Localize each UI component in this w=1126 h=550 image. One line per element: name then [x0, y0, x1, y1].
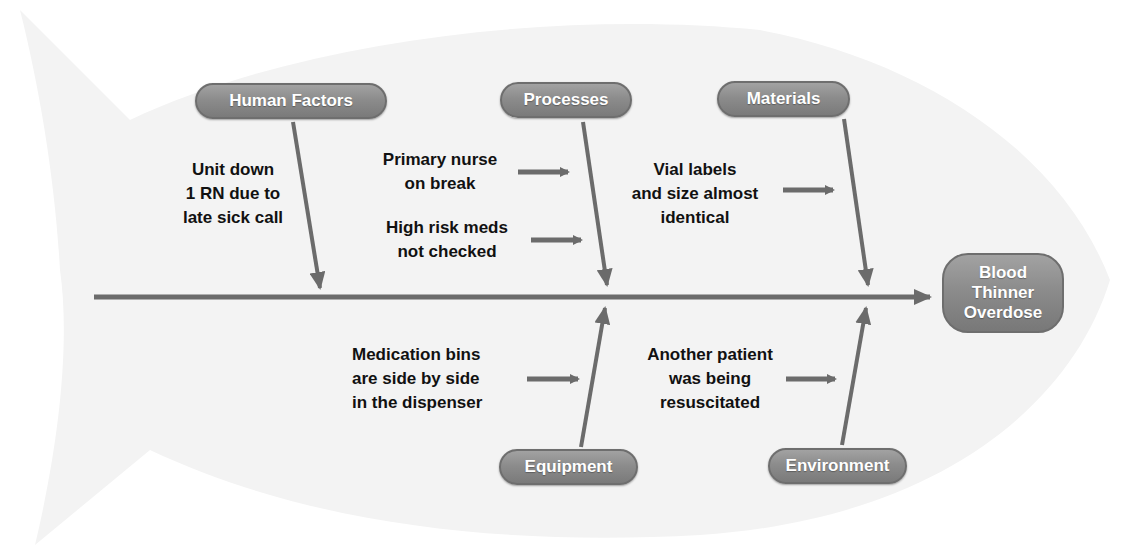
- category-materials: Materials: [717, 81, 850, 117]
- effect-line: Thinner: [972, 283, 1034, 303]
- cause-line: on break: [368, 172, 512, 196]
- effect-line: Overdose: [964, 303, 1042, 323]
- cause-line: was being: [640, 367, 780, 391]
- cause-line: 1 RN due to: [170, 182, 296, 206]
- cause-line: are side by side: [352, 367, 512, 391]
- cause-vial-labels: Vial labels and size almost identical: [614, 158, 776, 230]
- category-equipment: Equipment: [499, 449, 638, 485]
- cause-line: High risk meds: [370, 216, 524, 240]
- effect-line: Blood: [979, 263, 1027, 283]
- cause-line: Unit down: [170, 158, 296, 182]
- cause-line: late sick call: [170, 206, 296, 230]
- category-environment: Environment: [768, 448, 907, 484]
- effect-head: Blood Thinner Overdose: [942, 253, 1064, 333]
- cause-line: not checked: [370, 240, 524, 264]
- cause-line: identical: [614, 206, 776, 230]
- fishbone-diagram: Human Factors Processes Materials Equipm…: [0, 0, 1126, 550]
- cause-line: Vial labels: [614, 158, 776, 182]
- cause-line: in the dispenser: [352, 391, 512, 415]
- cause-high-risk-meds: High risk meds not checked: [370, 216, 524, 264]
- cause-line: resuscitated: [640, 391, 780, 415]
- category-processes: Processes: [500, 82, 632, 118]
- cause-medication-bins: Medication bins are side by side in the …: [352, 343, 512, 415]
- cause-primary-nurse: Primary nurse on break: [368, 148, 512, 196]
- cause-line: and size almost: [614, 182, 776, 206]
- cause-line: Medication bins: [352, 343, 512, 367]
- cause-unit-down: Unit down 1 RN due to late sick call: [170, 158, 296, 230]
- cause-another-patient: Another patient was being resuscitated: [640, 343, 780, 415]
- cause-line: Another patient: [640, 343, 780, 367]
- category-human-factors: Human Factors: [195, 83, 387, 119]
- cause-line: Primary nurse: [368, 148, 512, 172]
